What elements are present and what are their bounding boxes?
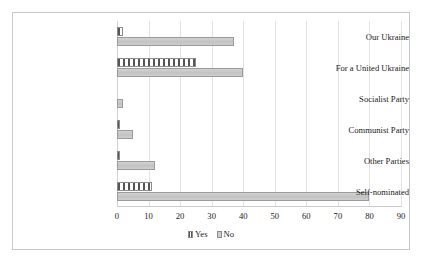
legend-label-no: No bbox=[224, 229, 235, 239]
bar-yes-other-parties bbox=[117, 151, 120, 160]
bar-yes-for-a-united-ukraine bbox=[117, 58, 196, 67]
bar-no-our-ukraine bbox=[117, 37, 234, 46]
chart-container: Our UkraineFor a United UkraineSocialist… bbox=[12, 12, 410, 250]
bar-yes-our-ukraine bbox=[117, 27, 123, 36]
category-label-other-parties: Other Parties bbox=[313, 156, 409, 166]
legend-item-yes[interactable]: Yes bbox=[188, 229, 208, 239]
x-tick-0: 0 bbox=[105, 211, 129, 221]
category-label-our-ukraine: Our Ukraine bbox=[313, 32, 409, 42]
x-tick-50: 50 bbox=[263, 211, 287, 221]
x-axis-tick-labels: 0102030405060708090 bbox=[117, 211, 401, 223]
x-tick-20: 20 bbox=[168, 211, 192, 221]
x-tick-60: 60 bbox=[294, 211, 318, 221]
category-label-for-a-united-ukraine: For a United Ukraine bbox=[313, 63, 409, 73]
yes-hatch-swatch bbox=[188, 231, 193, 238]
bar-no-socialist-party bbox=[117, 99, 123, 108]
gridline-90 bbox=[401, 21, 402, 207]
category-label-socialist-party: Socialist Party bbox=[313, 94, 409, 104]
x-tick-30: 30 bbox=[200, 211, 224, 221]
x-tick-70: 70 bbox=[326, 211, 350, 221]
category-label-communist-party: Communist Party bbox=[313, 125, 409, 135]
bar-no-for-a-united-ukraine bbox=[117, 68, 243, 77]
no-solid-swatch bbox=[217, 231, 222, 238]
bar-yes-self-nominated bbox=[117, 182, 152, 191]
plot-area bbox=[117, 21, 401, 207]
bar-no-other-parties bbox=[117, 161, 155, 170]
x-tick-90: 90 bbox=[389, 211, 413, 221]
chart-legend: YesNo bbox=[13, 229, 409, 239]
x-tick-10: 10 bbox=[137, 211, 161, 221]
legend-item-no[interactable]: No bbox=[217, 229, 235, 239]
category-label-self-nominated: Self-nominated bbox=[313, 187, 409, 197]
legend-label-yes: Yes bbox=[195, 229, 208, 239]
bar-no-communist-party bbox=[117, 130, 133, 139]
x-tick-80: 80 bbox=[357, 211, 381, 221]
x-tick-40: 40 bbox=[231, 211, 255, 221]
bar-yes-communist-party bbox=[117, 120, 120, 129]
